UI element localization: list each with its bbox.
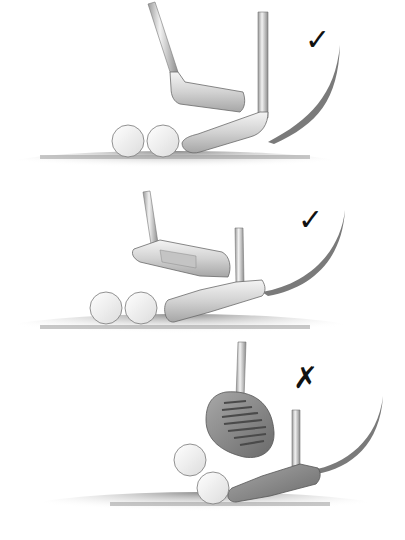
golf-ball bbox=[197, 472, 229, 504]
grass-line bbox=[40, 325, 310, 329]
arc-swoosh bbox=[268, 45, 340, 144]
golf-ball bbox=[90, 292, 122, 324]
panel-blade-putter bbox=[5, 2, 345, 179]
x-mark-icon: ✗ bbox=[293, 363, 318, 393]
blade-putter-head-lower bbox=[182, 112, 268, 153]
panel-mallet-putter bbox=[30, 342, 383, 524]
golf-ball bbox=[112, 125, 144, 157]
golf-ball bbox=[147, 125, 179, 157]
golf-ball bbox=[125, 292, 157, 324]
shaft bbox=[143, 191, 158, 244]
shaft bbox=[148, 2, 178, 75]
check-mark-icon: ✓ bbox=[305, 25, 330, 55]
check-mark-icon: ✓ bbox=[298, 205, 323, 235]
blade-putter-head-upper bbox=[170, 72, 245, 112]
shaft bbox=[236, 342, 246, 398]
arc-swoosh bbox=[312, 396, 383, 474]
golf-ball bbox=[174, 444, 206, 476]
grass-line bbox=[40, 155, 310, 159]
putter-illustration bbox=[0, 0, 405, 540]
shaft bbox=[292, 410, 300, 466]
shaft bbox=[258, 12, 268, 118]
shaft bbox=[235, 228, 244, 284]
